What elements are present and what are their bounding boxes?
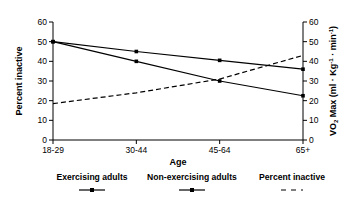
right-tick-label: 20 (309, 96, 319, 106)
bottom-tick-label: 45-64 (209, 145, 231, 155)
right-tick-label: 10 (309, 115, 319, 125)
left-tick-label: 20 (38, 96, 48, 106)
bottom-tick-label: 30-44 (125, 145, 147, 155)
series-marker-0 (301, 67, 305, 71)
series-marker-1 (51, 40, 55, 44)
left-tick-label: 50 (38, 37, 48, 47)
series-marker-1 (135, 60, 139, 64)
left-tick-label: 10 (38, 115, 48, 125)
legend-label-0: Exercising adults (56, 172, 127, 182)
right-axis-title: VO2 Max (ml · Kg-1 · min-1) (328, 26, 339, 136)
series-marker-1 (301, 94, 305, 98)
bottom-tick-label: 18-29 (42, 145, 64, 155)
left-tick-label: 60 (38, 17, 48, 27)
right-axis-title-max: Max (ml · Kg (328, 64, 338, 120)
legend-swatch-marker-0 (90, 188, 94, 192)
series-marker-0 (218, 59, 222, 63)
right-axis-title-close: ) (328, 26, 338, 29)
legend-label-2: Percent inactive (259, 172, 325, 182)
right-tick-label: 30 (309, 76, 319, 86)
left-axis-title: Percent inactive (14, 46, 24, 115)
left-tick-label: 40 (38, 56, 48, 66)
series-marker-0 (135, 50, 139, 54)
bottom-axis-title: Age (169, 157, 186, 167)
right-tick-label: 60 (309, 17, 319, 27)
bottom-tick-label: 65+ (296, 145, 310, 155)
right-axis-title-o: O (328, 123, 338, 130)
legend-swatch-marker-1 (190, 188, 194, 192)
right-tick-label: 0 (309, 135, 314, 145)
right-axis-title-group: VO2 Max (ml · Kg-1 · min-1) (328, 26, 339, 136)
line-chart: 0102030405060 0102030405060 18-2930-4445… (0, 0, 352, 204)
right-axis-title-min: · min (328, 34, 338, 58)
right-tick-label: 50 (309, 37, 319, 47)
series-marker-1 (218, 79, 222, 83)
left-tick-label: 0 (42, 135, 47, 145)
right-tick-label: 40 (309, 56, 319, 66)
left-tick-label: 30 (38, 76, 48, 86)
chart-container: 0102030405060 0102030405060 18-2930-4445… (0, 0, 352, 204)
legend-label-1: Non-exercising adults (147, 172, 237, 182)
